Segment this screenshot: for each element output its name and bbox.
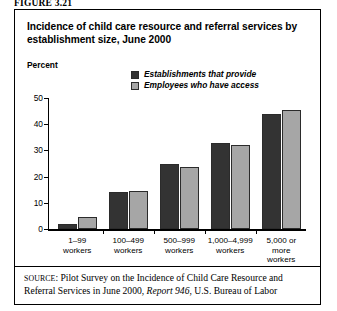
source-divider [15,266,321,267]
y-tick-label: 20 [21,173,43,181]
y-tick-mark [44,124,48,125]
y-tick-label: 30 [21,146,43,154]
y-tick-label: 0 [21,225,43,233]
bar [262,114,281,229]
x-axis-line [48,229,306,231]
bar-group [211,98,250,229]
bar [231,145,250,229]
y-tick-label: 40 [21,120,43,128]
bar-group [160,98,199,229]
bar [180,167,199,229]
y-tick-label-wrap: 30 [15,146,43,154]
bar [282,110,301,229]
x-tick-mark [154,230,155,234]
x-tick-label: 1,000–4,999 workers [204,236,256,255]
y-tick-label-wrap: 20 [15,173,43,181]
y-tick-mark [44,98,48,99]
y-tick-label-wrap: 40 [15,120,43,128]
x-tick-label: 5,000 or more workers [255,236,307,265]
source-text-2: , U.S. Bureau of Labor [189,285,277,296]
bar [78,217,97,229]
plot-area: 01020304050 1–99 workers100–499 workers5… [15,10,321,305]
bar [109,192,128,229]
x-tick-mark [256,230,257,234]
x-tick-label: 500–999 workers [153,236,205,255]
bar [129,191,148,229]
y-tick-label: 50 [21,94,43,102]
x-tick-label: 1–99 workers [51,236,103,255]
y-tick-mark [44,150,48,151]
y-tick-label: 10 [21,199,43,207]
figure-box: Incidence of child care resource and ref… [14,9,321,305]
x-tick-mark [103,230,104,234]
bar [160,164,179,230]
source-note: SOURCE: Pilot Survey on the Incidence of… [24,272,316,298]
y-tick-label-wrap: 50 [15,94,43,102]
x-tick-label: 100–499 workers [102,236,154,255]
source-prefix: SOURCE [24,274,55,283]
bar [58,224,77,229]
source-report: Report 946 [147,285,190,296]
figure-label: FIGURE 3.21 [14,0,72,8]
y-axis-line [48,98,49,230]
y-tick-mark [44,203,48,204]
x-tick-mark [205,230,206,234]
y-tick-label-wrap: 0 [15,225,43,233]
bar [211,143,230,229]
bar-group [262,98,301,229]
bar-group [109,98,148,229]
bar-group [58,98,97,229]
y-tick-mark [44,229,48,230]
y-tick-label-wrap: 10 [15,199,43,207]
y-tick-mark [44,177,48,178]
